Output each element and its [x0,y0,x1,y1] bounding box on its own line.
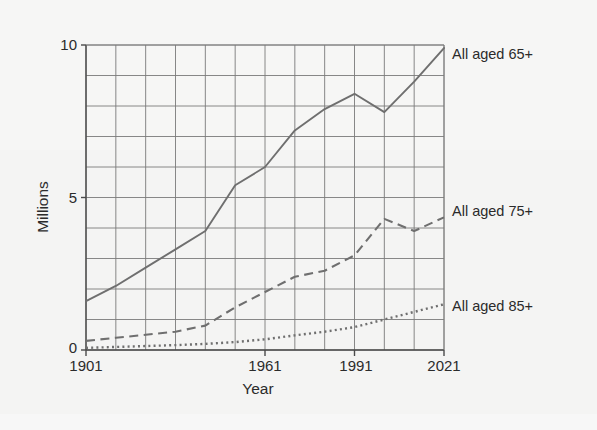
x-tick-label-1901: 1901 [69,357,102,374]
x-tick-label-1991: 1991 [339,357,372,374]
y-tick-label-0: 0 [69,339,77,356]
x-tick-label-1961: 1961 [248,357,281,374]
y-tick-label-10: 10 [60,36,77,53]
line-chart-figure: 10 5 0 1901 1961 1991 2021 Year Millions… [0,0,597,430]
y-axis-title: Millions [34,181,51,233]
y-tick-label-5: 5 [69,189,77,206]
series-label-all-aged-75-plus: All aged 75+ [452,203,533,219]
series-label-all-aged-65-plus: All aged 65+ [452,46,533,62]
chart-canvas: 10 5 0 1901 1961 1991 2021 Year Millions… [0,0,597,430]
x-tick-label-2021: 2021 [427,357,460,374]
chart-page: 10 5 0 1901 1961 1991 2021 Year Millions… [0,0,597,430]
series-label-all-aged-85-plus: All aged 85+ [452,298,533,314]
x-axis-title: Year [242,380,273,397]
